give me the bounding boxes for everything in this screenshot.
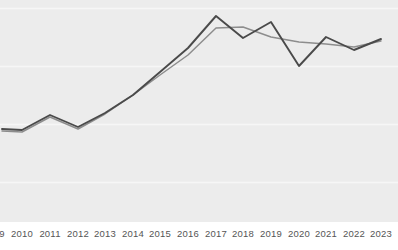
x-tick-2011: 2011 xyxy=(39,228,60,239)
x-tick-2020: 2020 xyxy=(288,228,310,239)
plot-area xyxy=(0,0,398,222)
x-tick-2022: 2022 xyxy=(343,228,365,239)
line-series-dark xyxy=(2,16,381,130)
x-tick-2019: 2019 xyxy=(260,228,282,239)
x-tick-2012: 2012 xyxy=(67,228,89,239)
x-tick-2021: 2021 xyxy=(315,228,337,239)
x-tick-2010: 2010 xyxy=(11,228,33,239)
x-tick-2009: 9 xyxy=(0,228,5,239)
x-tick-2023: 2023 xyxy=(370,228,392,239)
x-tick-2017: 2017 xyxy=(205,228,227,239)
line-chart: 9201020112012201320142015201620172018201… xyxy=(0,0,398,250)
x-tick-2014: 2014 xyxy=(122,228,144,239)
x-tick-2018: 2018 xyxy=(232,228,254,239)
x-tick-2016: 2016 xyxy=(177,228,199,239)
x-tick-2013: 2013 xyxy=(94,228,116,239)
series-lines xyxy=(0,0,398,222)
x-tick-2015: 2015 xyxy=(149,228,171,239)
x-axis-tick-labels: 9201020112012201320142015201620172018201… xyxy=(0,222,398,250)
